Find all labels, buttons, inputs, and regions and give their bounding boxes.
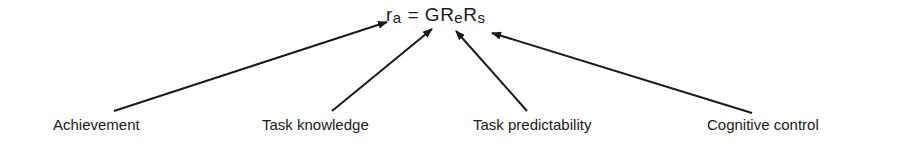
label-task-knowledge: Task knowledge — [262, 116, 369, 133]
formula-equals: = — [407, 4, 419, 25]
formula: ra = GReRs — [386, 4, 485, 26]
label-task-predictability: Task predictability — [473, 116, 591, 133]
formula-r-s-subscript: s — [477, 9, 485, 26]
label-cognitive-control: Cognitive control — [707, 116, 819, 133]
formula-lhs-subscript: a — [393, 9, 402, 26]
arrow-task-predictability — [456, 31, 527, 111]
arrow-cognitive-control — [492, 33, 752, 113]
formula-r-e-subscript: e — [454, 9, 463, 26]
formula-r-s: R — [463, 4, 477, 25]
arrow-achievement — [114, 22, 387, 111]
arrow-task-knowledge — [332, 29, 432, 111]
label-achievement: Achievement — [53, 116, 140, 133]
formula-g: G — [425, 4, 440, 25]
formula-r-e: R — [440, 4, 454, 25]
formula-lhs: r — [386, 4, 393, 25]
